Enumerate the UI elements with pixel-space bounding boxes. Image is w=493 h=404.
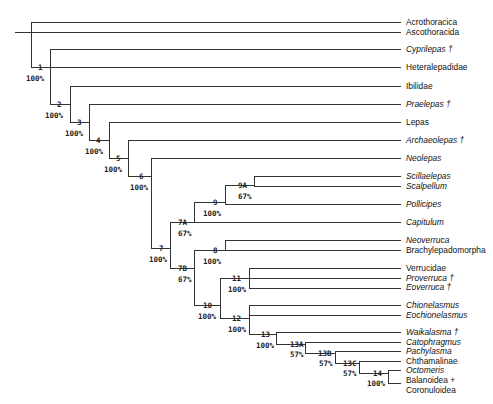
node-id: 1	[38, 63, 43, 72]
node-id: 6	[139, 172, 144, 181]
node-support: 100%	[65, 129, 84, 138]
node-id: 14	[373, 369, 383, 378]
node-support: 100%	[149, 255, 168, 264]
taxon-label: Eoverruca †	[406, 282, 451, 292]
node-id: 10	[203, 301, 213, 310]
node-id: 12	[232, 314, 241, 323]
taxon-label: Praelepas †	[406, 99, 451, 109]
node-support: 100%	[203, 209, 222, 218]
node-id: 13A	[290, 340, 304, 349]
taxon-label: Octomeris	[406, 365, 444, 375]
taxon-label: Pachylasma	[406, 346, 452, 356]
node-support: 100%	[130, 183, 149, 192]
taxon-label: Archaeolepas †	[406, 135, 464, 145]
node-support: 100%	[85, 147, 104, 156]
node-labels: 1 100% 2 100% 3 100% 4 100% 5 100% 6 100…	[26, 63, 386, 388]
taxon-label: Verrucidae	[406, 263, 446, 273]
node-id: 11	[232, 274, 242, 283]
node-id: 7B	[178, 264, 188, 273]
node-id: 7	[159, 244, 164, 253]
node-id: 2	[57, 100, 62, 109]
node-support: 100%	[203, 257, 222, 266]
node-support: 67%	[238, 192, 252, 201]
node-id: 9	[213, 198, 218, 207]
node-support: 67%	[178, 275, 192, 284]
node-id: 13C	[343, 359, 357, 368]
node-support: 57%	[319, 359, 333, 368]
taxon-label: Scillaelepas	[406, 171, 451, 181]
node-support: 100%	[228, 285, 247, 294]
node-id: 7A	[178, 218, 188, 227]
node-support: 100%	[256, 341, 275, 350]
taxon-label: Coronuloidea	[406, 385, 456, 395]
node-id: 13B	[318, 349, 332, 358]
node-support: 100%	[198, 312, 217, 321]
taxon-label: Brachylepadomorpha	[406, 245, 486, 255]
node-support: 100%	[45, 111, 64, 120]
branches	[15, 22, 401, 383]
taxon-label: Neoverruca	[406, 235, 449, 245]
taxon-label: Lepas	[406, 117, 429, 127]
node-id: 4	[96, 136, 101, 145]
node-id: 9A	[238, 181, 248, 190]
taxon-label: Chionelasmus	[406, 300, 459, 310]
node-id: 3	[77, 118, 82, 127]
taxon-label: Neolepas	[406, 153, 441, 163]
taxon-label: Scalpellum	[406, 181, 447, 191]
taxon-label: Pollicipes	[406, 199, 441, 209]
taxon-label: Heteralepadidae	[406, 62, 467, 72]
taxon-label: Balanoidea +	[406, 375, 455, 385]
node-support: 100%	[26, 74, 45, 83]
taxon-label: Ascothoracida	[406, 27, 459, 37]
node-support: 57%	[343, 369, 357, 378]
taxon-label: Cyprilepas †	[406, 44, 453, 54]
node-support: 100%	[104, 165, 123, 174]
node-support: 67%	[178, 229, 192, 238]
node-id: 13	[261, 330, 271, 339]
node-support: 100%	[228, 325, 247, 334]
taxon-label: Acrothoracica	[406, 17, 457, 27]
taxon-label: Waikalasma †	[406, 327, 458, 337]
node-support: 57%	[290, 350, 304, 359]
node-id: 8	[213, 246, 218, 255]
node-support: 100%	[367, 379, 386, 388]
taxon-label: Capitulum	[406, 217, 444, 227]
taxon-label: Eochionelasmus	[406, 310, 467, 320]
node-id: 5	[116, 154, 121, 163]
taxon-label: Ibilidae	[406, 81, 433, 91]
